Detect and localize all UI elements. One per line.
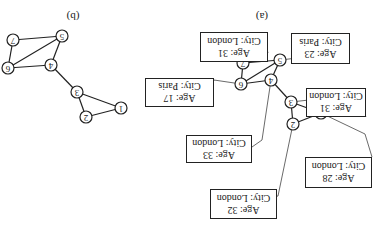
node-b-2: 2 bbox=[81, 111, 91, 123]
attr-box-node-4: Age: 33 City: London bbox=[186, 135, 252, 163]
attr-box-node-7: Age: 31 City: London bbox=[200, 32, 268, 62]
attr-box-node-2: Age: 32 City: London bbox=[210, 189, 277, 219]
attr-box-node-6: Age: 17 City: Paris bbox=[145, 78, 214, 107]
attr-box-node-5: Age: 23 City: Paris bbox=[291, 33, 350, 64]
attr-city: City: London bbox=[312, 161, 366, 173]
node-a-3: 3 bbox=[286, 96, 296, 108]
attr-city: City: London bbox=[309, 91, 363, 103]
attr-box-node-1: Age: 28 City: London bbox=[305, 157, 372, 188]
caption-b: (b) bbox=[64, 9, 82, 23]
attr-age: Age: 17 bbox=[164, 93, 196, 105]
attr-box-node-3: Age: 31 City: London bbox=[306, 88, 366, 117]
node-a-4: 4 bbox=[266, 74, 276, 86]
caption-a: (a) bbox=[253, 9, 271, 23]
node-b-4: 4 bbox=[46, 59, 56, 71]
node-b-7: 7 bbox=[8, 34, 18, 46]
node-a-5: 5 bbox=[275, 54, 285, 66]
attr-age: Age: 32 bbox=[228, 204, 260, 216]
node-b-1: 1 bbox=[116, 102, 126, 114]
attr-age: Age: 31 bbox=[320, 103, 352, 115]
attr-age: Age: 28 bbox=[323, 173, 355, 185]
attr-city: City: London bbox=[207, 35, 261, 47]
node-b-3: 3 bbox=[72, 86, 82, 98]
node-a-6: 6 bbox=[236, 78, 246, 90]
figure-canvas: (b) (a) 1 2 3 4 5 6 7 1 2 3 4 5 6 7 Age:… bbox=[0, 0, 377, 225]
node-b-6: 6 bbox=[3, 62, 13, 74]
attr-age: Age: 31 bbox=[218, 47, 250, 59]
attr-age: Age: 23 bbox=[305, 49, 337, 61]
attr-age: Age: 33 bbox=[203, 149, 235, 161]
attr-city: City: London bbox=[217, 192, 271, 204]
node-a-2: 2 bbox=[288, 118, 298, 130]
attr-city: City: Paris bbox=[299, 37, 342, 49]
node-b-5: 5 bbox=[57, 30, 67, 42]
attr-city: City: London bbox=[192, 137, 246, 149]
attr-city: City: Paris bbox=[158, 81, 201, 93]
